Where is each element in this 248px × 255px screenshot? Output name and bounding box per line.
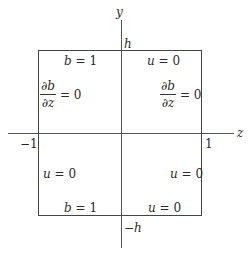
bc-left-upper: ∂b ∂z = 0: [40, 80, 81, 109]
bc-top-right: u = 0: [147, 55, 180, 67]
y-axis-label: y: [116, 6, 123, 18]
tick-minus-1: −1: [20, 138, 38, 150]
tick-h: h: [124, 38, 132, 50]
bc-right-upper: ∂b ∂z = 0: [160, 80, 201, 109]
bc-right-lower: u = 0: [170, 168, 203, 180]
domain-rectangle: [38, 50, 202, 216]
z-axis-label: z: [237, 127, 243, 139]
tick-minus-h: −h: [124, 222, 142, 234]
bc-top-left: b = 1: [64, 55, 97, 67]
tick-1: 1: [205, 138, 213, 150]
bc-bottom-right: u = 0: [148, 202, 181, 214]
bc-bottom-left: b = 1: [64, 202, 97, 214]
bc-left-lower: u = 0: [43, 168, 76, 180]
